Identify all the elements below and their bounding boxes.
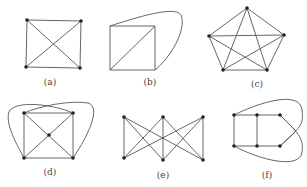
panel-d-label: (d) xyxy=(44,167,57,177)
panel-f-label: (f) xyxy=(262,170,272,180)
panel-f-graph: (f) xyxy=(232,99,302,180)
panel-e-label: (e) xyxy=(157,170,169,180)
panel-a-label: (a) xyxy=(44,77,56,87)
panel-a-graph: (a) xyxy=(24,18,83,87)
graph-figure: (a) (b) (c) xyxy=(0,0,307,187)
panel-e-graph: (e) xyxy=(122,115,205,180)
panel-b-label: (b) xyxy=(144,77,157,87)
panel-b-graph: (b) xyxy=(110,11,182,87)
panel-c-graph: (c) xyxy=(207,6,286,89)
panel-d-graph: (d) xyxy=(8,102,93,177)
panel-c-label: (c) xyxy=(251,79,263,89)
